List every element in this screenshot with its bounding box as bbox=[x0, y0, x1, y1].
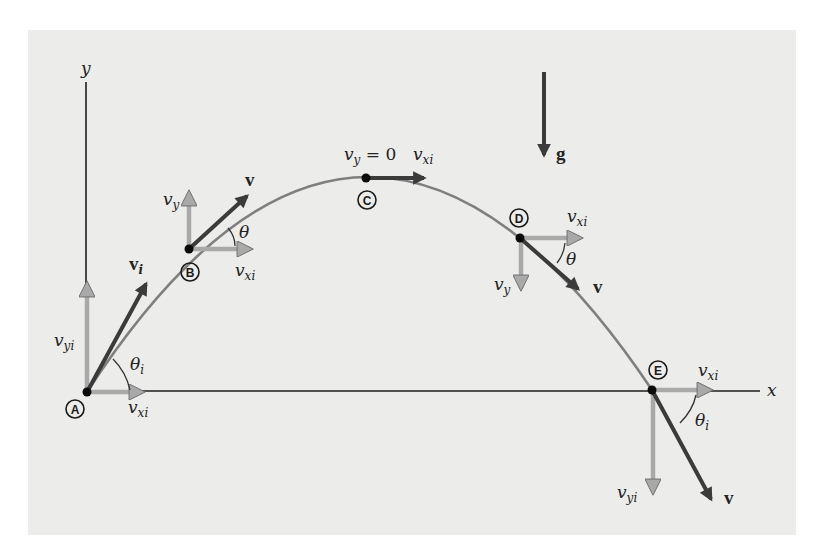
vy-zero-label-c: vy = 0 bbox=[344, 144, 396, 167]
v-glyph: v bbox=[698, 360, 708, 380]
theta-glyph: θ bbox=[130, 354, 140, 374]
theta-label-b: θ bbox=[239, 222, 249, 242]
y-axis-label: y bbox=[80, 58, 91, 78]
theta-label-d: θ bbox=[566, 249, 576, 269]
v-glyph: v bbox=[344, 144, 354, 164]
theta-glyph: θ bbox=[695, 410, 705, 430]
sub: i bbox=[140, 363, 144, 377]
v-label-d: v bbox=[593, 276, 603, 297]
sub: yi bbox=[63, 339, 75, 353]
v-glyph: v bbox=[128, 397, 138, 417]
v-glyph: v bbox=[413, 144, 423, 164]
gravity-label: g bbox=[556, 143, 566, 164]
v-label-e: v bbox=[724, 487, 734, 508]
v-glyph: v bbox=[494, 274, 504, 294]
sub: i bbox=[705, 419, 709, 433]
v-glyph: v bbox=[54, 330, 64, 350]
v-label-b: v bbox=[245, 169, 255, 190]
point-e-dot bbox=[648, 386, 657, 395]
point-a-dot bbox=[83, 388, 92, 397]
sub: xi bbox=[138, 406, 149, 420]
sub: xi bbox=[708, 369, 719, 383]
sub: xi bbox=[577, 215, 588, 229]
point-b-letter: B bbox=[186, 266, 195, 280]
sub: xi bbox=[423, 153, 434, 167]
point-c-letter: C bbox=[363, 194, 372, 208]
point-c-dot bbox=[362, 174, 371, 183]
sub: yi bbox=[626, 491, 638, 505]
projectile-diagram: y x g A vyi vxi θi vi B vy vxi θ v C bbox=[0, 0, 824, 551]
background-panel bbox=[28, 30, 796, 535]
x-axis-label: x bbox=[767, 380, 777, 400]
sub: y bbox=[503, 283, 511, 297]
v-glyph: v bbox=[129, 253, 139, 274]
point-e-letter: E bbox=[654, 364, 662, 378]
sub: i bbox=[139, 263, 144, 277]
point-d-letter: D bbox=[515, 212, 524, 226]
v-glyph: v bbox=[567, 206, 577, 226]
sub: xi bbox=[245, 269, 256, 283]
v-glyph: v bbox=[617, 482, 627, 502]
v-glyph: v bbox=[235, 260, 245, 280]
v-glyph: v bbox=[163, 189, 173, 209]
point-b-dot bbox=[185, 245, 194, 254]
point-a-letter: A bbox=[71, 403, 80, 417]
point-d-dot bbox=[516, 234, 525, 243]
equals-zero: = 0 bbox=[360, 144, 396, 164]
sub: y bbox=[172, 198, 180, 212]
